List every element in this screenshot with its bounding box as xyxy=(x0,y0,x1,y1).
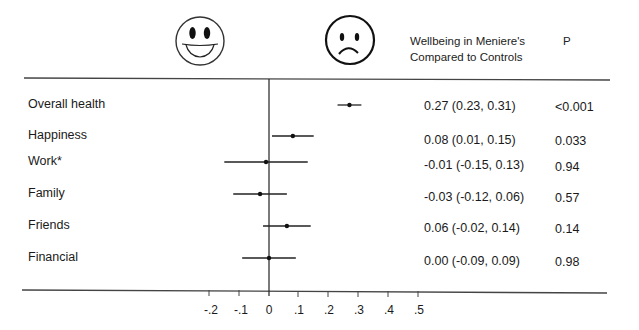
p-value: 0.14 xyxy=(555,222,579,236)
point-estimate xyxy=(347,103,351,107)
estimate-value: 0.27 (0.23, 0.31) xyxy=(424,99,516,113)
sad-face-icon xyxy=(326,16,374,64)
estimate-title-line1: Wellbeing in Meniere's xyxy=(410,33,525,49)
row-label: Financial xyxy=(28,250,78,264)
row-label: Work* xyxy=(28,154,62,168)
x-tick-label: .4 xyxy=(384,303,394,317)
p-value: 0.033 xyxy=(555,134,586,148)
p-value: 0.94 xyxy=(555,160,579,174)
point-estimate xyxy=(264,160,268,164)
row-label: Happiness xyxy=(28,128,87,142)
point-estimate xyxy=(258,192,262,196)
top-rule xyxy=(24,78,610,80)
x-tick-label: .3 xyxy=(354,303,364,317)
estimate-value: -0.01 (-0.15, 0.13) xyxy=(424,158,524,172)
estimate-value: -0.03 (-0.12, 0.06) xyxy=(424,190,524,204)
p-column-title: P xyxy=(563,33,571,49)
point-estimate xyxy=(285,224,289,228)
p-value: <0.001 xyxy=(555,100,594,114)
estimate-title-line2: Compared to Controls xyxy=(410,49,525,65)
estimate-value: 0.00 (-0.09, 0.09) xyxy=(424,254,520,268)
confidence-intervals xyxy=(224,103,361,260)
estimate-value: 0.08 (0.01, 0.15) xyxy=(424,133,516,147)
smiley-face-icon xyxy=(176,17,224,65)
x-tick-label: 0 xyxy=(266,303,273,317)
x-tick-label: .1 xyxy=(294,303,304,317)
point-estimate xyxy=(291,134,295,138)
estimate-value: 0.06 (-0.02, 0.14) xyxy=(424,221,520,235)
x-tick-label: .2 xyxy=(324,303,334,317)
row-label: Friends xyxy=(28,218,70,232)
x-tick-label: .5 xyxy=(414,303,424,317)
row-label: Overall health xyxy=(28,97,105,111)
point-estimate xyxy=(267,256,271,260)
row-label: Family xyxy=(28,186,65,200)
x-axis xyxy=(22,290,607,293)
estimate-column-title: Wellbeing in Meniere's Compared to Contr… xyxy=(410,33,525,65)
x-tick-label: -.2 xyxy=(204,303,218,317)
p-value: 0.57 xyxy=(555,191,579,205)
x-tick-label: -.1 xyxy=(234,303,248,317)
forest-plot-graphics xyxy=(0,0,639,330)
p-value: 0.98 xyxy=(555,255,579,269)
